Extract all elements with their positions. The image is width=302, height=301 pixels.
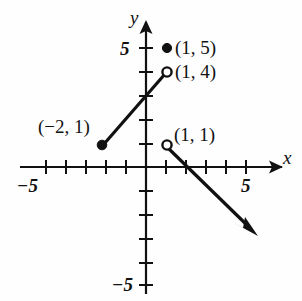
falling-ray-arrow-icon xyxy=(234,217,258,236)
point-label-1-5: (1, 5) xyxy=(175,38,216,57)
point-marker-1-5 xyxy=(162,43,171,52)
point-label-1-1: (1, 1) xyxy=(174,125,215,144)
y-tick-label-neg5: −5 xyxy=(112,275,133,294)
point-marker-1-1 xyxy=(162,140,171,149)
point-marker-neg2-1 xyxy=(97,140,107,150)
x-tick-label-5: 5 xyxy=(241,176,251,195)
x-tick-label-neg5: −5 xyxy=(17,176,38,195)
point-marker-1-4 xyxy=(162,67,171,76)
point-label-neg2-1: (−2, 1) xyxy=(38,117,90,136)
rising-segment xyxy=(104,74,165,144)
graph-canvas xyxy=(0,0,302,301)
coordinate-plane-figure: y x 5 −5 −5 5 (1, 5) (1, 4) (−2, 1) (1, … xyxy=(0,0,302,301)
point-label-1-4: (1, 4) xyxy=(175,62,216,81)
y-axis-label: y xyxy=(130,8,138,27)
y-tick-label-5: 5 xyxy=(120,39,130,58)
x-axis-label: x xyxy=(283,148,291,167)
falling-ray xyxy=(168,148,250,228)
